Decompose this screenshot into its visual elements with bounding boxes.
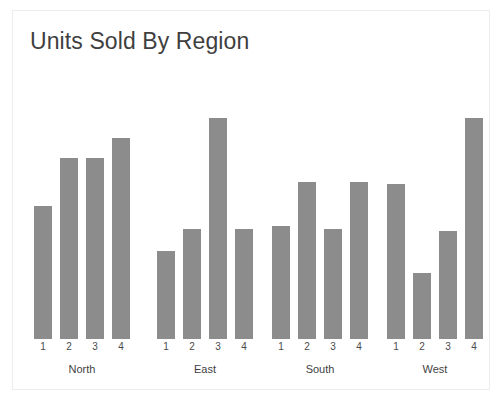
tick-label: 1	[268, 341, 294, 352]
bar-slot: 3	[82, 109, 108, 339]
bar-west-2[interactable]	[413, 273, 431, 339]
bar-slot: 3	[435, 109, 461, 339]
tick-label: 2	[179, 341, 205, 352]
bar-north-3[interactable]	[86, 158, 104, 339]
bar-group-east: 1 2 3 4 East	[153, 109, 257, 339]
bar-south-3[interactable]	[324, 229, 342, 340]
bar-slot: 4	[461, 109, 487, 339]
tick-label: 4	[346, 341, 372, 352]
plot-area: 1 2 3 4 North 1 2	[13, 11, 491, 391]
bar-east-4[interactable]	[235, 229, 253, 340]
bar-slot: 2	[179, 109, 205, 339]
bar-slot: 1	[30, 109, 56, 339]
tick-label: 2	[294, 341, 320, 352]
bar-south-1[interactable]	[272, 226, 290, 339]
tick-label: 4	[461, 341, 487, 352]
tick-label: 3	[435, 341, 461, 352]
bar-group-south: 1 2 3 4 South	[268, 109, 372, 339]
bar-east-2[interactable]	[183, 229, 201, 340]
bar-west-4[interactable]	[465, 118, 483, 339]
bar-slot: 1	[383, 109, 409, 339]
bar-group-north: 1 2 3 4 North	[30, 109, 134, 339]
bar-slot: 4	[108, 109, 134, 339]
bar-north-1[interactable]	[34, 206, 52, 339]
tick-label: 2	[56, 341, 82, 352]
chart-card: Units Sold By Region 1 2 3 4 North	[12, 10, 490, 390]
tick-label: 3	[320, 341, 346, 352]
bar-slot: 4	[346, 109, 372, 339]
group-label-north: North	[30, 363, 134, 375]
tick-label: 3	[82, 341, 108, 352]
bar-slot: 2	[409, 109, 435, 339]
group-label-west: West	[383, 363, 487, 375]
bar-south-2[interactable]	[298, 182, 316, 339]
bar-west-3[interactable]	[439, 231, 457, 339]
tick-label: 2	[409, 341, 435, 352]
bar-slot: 4	[231, 109, 257, 339]
bar-south-4[interactable]	[350, 182, 368, 339]
bar-east-1[interactable]	[157, 251, 175, 339]
tick-label: 3	[205, 341, 231, 352]
bar-slot: 2	[56, 109, 82, 339]
bar-east-3[interactable]	[209, 118, 227, 339]
bar-slot: 1	[268, 109, 294, 339]
tick-label: 1	[153, 341, 179, 352]
bar-slot: 1	[153, 109, 179, 339]
bar-group-west: 1 2 3 4 West	[383, 109, 487, 339]
bar-north-2[interactable]	[60, 158, 78, 339]
tick-label: 1	[30, 341, 56, 352]
group-label-south: South	[268, 363, 372, 375]
tick-label: 4	[108, 341, 134, 352]
group-label-east: East	[153, 363, 257, 375]
tick-label: 1	[383, 341, 409, 352]
bar-slot: 3	[205, 109, 231, 339]
bar-north-4[interactable]	[112, 138, 130, 339]
bar-slot: 2	[294, 109, 320, 339]
bar-west-1[interactable]	[387, 184, 405, 339]
tick-label: 4	[231, 341, 257, 352]
bar-slot: 3	[320, 109, 346, 339]
